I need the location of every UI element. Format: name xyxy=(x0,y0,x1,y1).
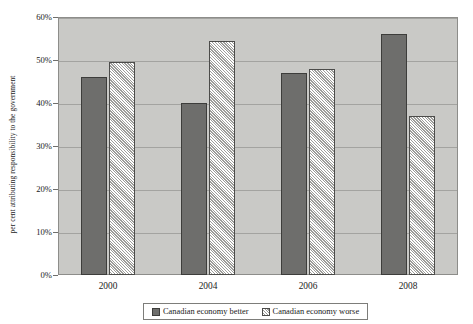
bar-2006-better xyxy=(281,73,307,275)
y-axis-tick-label: 50% xyxy=(12,56,52,65)
y-axis-tick-mark xyxy=(53,60,58,61)
y-axis-tick-label: 20% xyxy=(12,185,52,194)
y-axis-tick-mark xyxy=(53,103,58,104)
bar-2006-worse xyxy=(309,69,335,275)
legend-swatch-icon-worse xyxy=(262,308,270,316)
y-axis-tick-label: 60% xyxy=(12,13,52,22)
x-axis-tick-label: 2008 xyxy=(358,281,458,291)
x-axis-tick-label: 2000 xyxy=(58,281,158,291)
y-axis-tick-label: 0% xyxy=(12,271,52,280)
legend-entry-better: Canadian economy better xyxy=(152,307,249,316)
bar-chart-figure: per cent attributing responsibility to t… xyxy=(0,0,473,324)
gridline xyxy=(59,18,457,19)
y-axis-tick-label: 30% xyxy=(12,142,52,151)
legend-label-worse: Canadian economy worse xyxy=(273,307,360,316)
x-axis-tick-label: 2006 xyxy=(258,281,358,291)
y-axis-title: per cent attributing responsibility to t… xyxy=(8,55,17,255)
chart-legend: Canadian economy better Canadian economy… xyxy=(143,303,368,320)
bar-2000-worse xyxy=(109,62,135,275)
legend-label-better: Canadian economy better xyxy=(163,307,249,316)
bar-2008-worse xyxy=(409,116,435,275)
y-axis-tick-mark xyxy=(53,189,58,190)
y-axis-tick-label: 10% xyxy=(12,228,52,237)
legend-entry-worse: Canadian economy worse xyxy=(262,307,360,316)
legend-swatch-icon-better xyxy=(152,308,160,316)
y-axis-tick-mark xyxy=(53,275,58,276)
bar-2004-better xyxy=(181,103,207,275)
bar-2000-better xyxy=(81,77,107,275)
y-axis-tick-mark xyxy=(53,146,58,147)
chart-title xyxy=(40,0,440,3)
bar-2004-worse xyxy=(209,41,235,275)
x-axis-tick-label: 2004 xyxy=(158,281,258,291)
y-axis-tick-label: 40% xyxy=(12,99,52,108)
y-axis-tick-mark xyxy=(53,17,58,18)
y-axis-tick-mark xyxy=(53,232,58,233)
bar-2008-better xyxy=(381,34,407,275)
